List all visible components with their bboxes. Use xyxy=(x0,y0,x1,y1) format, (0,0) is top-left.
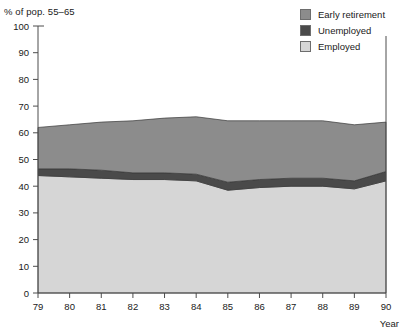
svg-text:0: 0 xyxy=(24,288,29,299)
svg-text:81: 81 xyxy=(96,301,107,312)
svg-text:30: 30 xyxy=(18,207,29,218)
svg-text:90: 90 xyxy=(381,301,392,312)
svg-text:84: 84 xyxy=(191,301,202,312)
svg-text:87: 87 xyxy=(286,301,297,312)
svg-text:80: 80 xyxy=(64,301,75,312)
svg-text:90: 90 xyxy=(18,47,29,58)
svg-text:80: 80 xyxy=(18,74,29,85)
svg-text:85: 85 xyxy=(223,301,234,312)
y-axis-ticks: 0102030405060708090100 xyxy=(13,21,38,299)
x-axis-ticks: 798081828384858687888990 xyxy=(33,293,392,312)
svg-text:20: 20 xyxy=(18,234,29,245)
svg-text:83: 83 xyxy=(159,301,170,312)
svg-text:70: 70 xyxy=(18,101,29,112)
svg-text:10: 10 xyxy=(18,261,29,272)
chart-container: % of pop. 55–65 Early retirement Unemplo… xyxy=(0,0,405,335)
area-employed xyxy=(38,176,386,293)
svg-text:88: 88 xyxy=(317,301,328,312)
svg-text:82: 82 xyxy=(128,301,139,312)
svg-text:100: 100 xyxy=(13,21,29,32)
svg-text:60: 60 xyxy=(18,127,29,138)
x-axis-caption: Year xyxy=(380,318,399,329)
stacked-areas xyxy=(38,117,386,293)
svg-text:40: 40 xyxy=(18,181,29,192)
svg-text:89: 89 xyxy=(349,301,360,312)
svg-text:86: 86 xyxy=(254,301,265,312)
svg-text:79: 79 xyxy=(33,301,44,312)
chart-plot: 0102030405060708090100 79808182838485868… xyxy=(0,0,405,335)
svg-text:50: 50 xyxy=(18,154,29,165)
